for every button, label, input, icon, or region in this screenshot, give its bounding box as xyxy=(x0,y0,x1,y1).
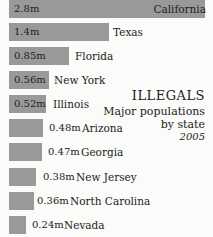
value-arizona: 0.48m xyxy=(49,119,81,137)
bar-arizona xyxy=(9,119,43,137)
bar-north-carolina xyxy=(9,192,34,210)
bar-new-jersey xyxy=(9,168,36,186)
label-california: California xyxy=(153,0,206,18)
value-new-york: 0.56m xyxy=(14,71,46,89)
value-florida: 0.85m xyxy=(14,47,46,65)
value-texas: 1.4m xyxy=(14,23,39,41)
label-illinois: Illinois xyxy=(53,95,89,113)
bar-georgia xyxy=(9,143,42,161)
label-georgia: Georgia xyxy=(81,143,123,161)
label-north-carolina: North Carolina xyxy=(70,192,150,210)
bar-nevada xyxy=(9,216,26,234)
chart-subtitle: Major populations by state xyxy=(103,105,205,131)
chart-year: 2005 xyxy=(180,131,205,142)
value-north-carolina: 0.36m xyxy=(37,192,69,210)
subtitle-line-1: Major populations xyxy=(103,105,205,118)
value-new-jersey: 0.38m xyxy=(43,168,75,186)
value-nevada: 0.24m xyxy=(32,216,64,234)
label-new-york: New York xyxy=(54,71,105,89)
label-nevada: Nevada xyxy=(64,216,105,234)
label-florida: Florida xyxy=(75,47,113,65)
value-georgia: 0.47m xyxy=(48,143,80,161)
subtitle-line-2: by state xyxy=(103,118,205,131)
value-california: 2.8m xyxy=(14,0,39,18)
value-illinois: 0.52m xyxy=(14,95,46,113)
label-texas: Texas xyxy=(113,23,143,41)
label-new-jersey: New Jersey xyxy=(76,168,137,186)
chart-title: ILLEGALS xyxy=(132,88,205,103)
